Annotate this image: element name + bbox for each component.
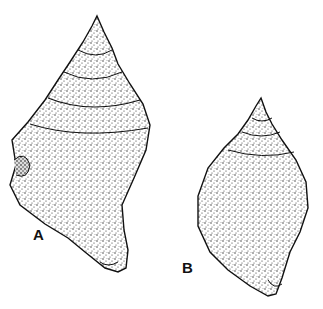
shell-drawings [0,0,323,309]
shell-b-label: B [182,259,193,276]
shell-a [10,16,150,272]
shell-b [198,98,308,296]
shell-a-label: A [33,226,44,243]
shell-illustration-figure: A B [0,0,323,309]
